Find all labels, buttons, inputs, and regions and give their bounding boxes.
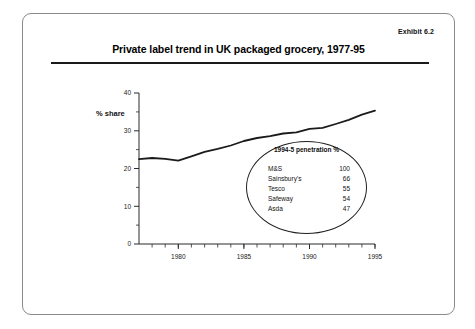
- retailer-name: M&S: [268, 163, 330, 173]
- table-row: Sainsbury's 66: [268, 173, 350, 183]
- retailer-value: 66: [330, 173, 350, 183]
- table-row: M&S 100: [268, 163, 350, 173]
- y-tick-label-0: 0: [127, 240, 131, 247]
- retailer-value: 54: [330, 194, 350, 204]
- y-axis-major-ticks: [134, 93, 139, 244]
- retailer-value: 55: [330, 183, 350, 193]
- retailer-value: 100: [330, 163, 350, 173]
- inset-heading: 1994-5 penetration %: [246, 146, 367, 153]
- retailer-name: Safeway: [268, 194, 330, 204]
- x-tick-label-1990: 1990: [302, 253, 317, 260]
- retailer-value: 47: [330, 204, 350, 214]
- x-tick-label-1995: 1995: [368, 253, 383, 260]
- exhibit-page: Exhibit 6.2 Private label trend in UK pa…: [0, 0, 475, 329]
- x-tick-label-1985: 1985: [237, 253, 252, 260]
- y-tick-label-20: 20: [124, 165, 132, 172]
- table-row: Safeway 54: [268, 194, 350, 204]
- x-axis-minor-ticks: [152, 244, 375, 248]
- retailer-name: Asda: [268, 204, 330, 214]
- exhibit-frame: Exhibit 6.2 Private label trend in UK pa…: [22, 13, 455, 315]
- penetration-table: M&S 100 Sainsbury's 66 Tesco 55 Safeway …: [268, 163, 350, 214]
- table-row: Asda 47: [268, 204, 350, 214]
- y-tick-label-40: 40: [124, 89, 132, 96]
- x-tick-label-1980: 1980: [171, 253, 186, 260]
- y-tick-label-30: 30: [124, 127, 132, 134]
- x-axis-major-ticks: [178, 244, 375, 249]
- table-row: Tesco 55: [268, 183, 350, 193]
- inset-callout-content: 1994-5 penetration % M&S 100 Sainsbury's…: [246, 141, 367, 234]
- retailer-name: Tesco: [268, 183, 330, 193]
- retailer-name: Sainsbury's: [268, 173, 330, 183]
- line-chart-svg: 0 10 20 30 40 1980 1985 1990 1995: [23, 14, 456, 316]
- y-tick-label-10: 10: [124, 203, 132, 210]
- chart-plot-area: 0 10 20 30 40 1980 1985 1990 1995: [23, 14, 456, 316]
